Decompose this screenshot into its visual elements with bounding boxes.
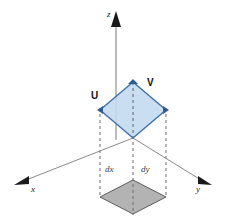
figure-root: x y z U V dx dy bbox=[0, 0, 225, 223]
axis-x-label: x bbox=[30, 184, 35, 194]
vector-figure: x y z U V dx dy bbox=[0, 0, 225, 223]
axis-z-label: z bbox=[106, 9, 111, 19]
vector-label-u: U bbox=[91, 90, 98, 101]
vertex-marker-left bbox=[97, 106, 103, 114]
dimension-label-dy: dy bbox=[141, 164, 150, 174]
axis-z-arrowhead bbox=[111, 11, 121, 27]
dimension-label-dx: dx bbox=[105, 164, 114, 174]
axis-x-line bbox=[26, 138, 133, 180]
axis-x: x bbox=[14, 138, 133, 194]
axis-y-label: y bbox=[195, 184, 200, 194]
vertex-marker-top bbox=[128, 79, 138, 84]
vertex-marker-right bbox=[163, 106, 169, 114]
vector-label-v: V bbox=[147, 77, 154, 88]
axis-x-arrowhead bbox=[14, 176, 29, 185]
axis-y-arrowhead bbox=[198, 176, 212, 185]
